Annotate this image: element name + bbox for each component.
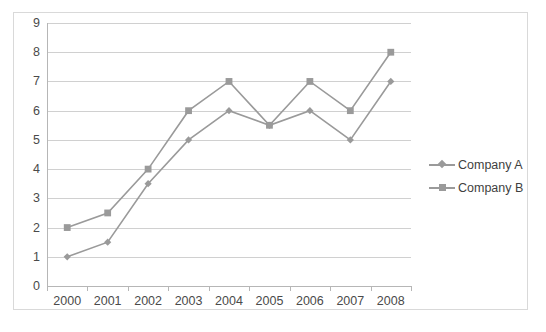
legend-item-company-b[interactable]: Company B — [429, 176, 525, 199]
y-tick-label: 9 — [33, 16, 40, 30]
y-tick-label: 5 — [33, 133, 40, 147]
x-tick-mark — [209, 286, 210, 291]
x-tick-label: 2005 — [256, 294, 284, 308]
x-tick-mark — [87, 286, 88, 291]
data-point-square — [347, 107, 354, 114]
x-tick-label: 2007 — [336, 294, 364, 308]
x-tick-mark — [290, 286, 291, 291]
y-tick-label: 6 — [33, 104, 40, 118]
chart-plot-wrapper: 0123456789 20002001200220032004200520062… — [14, 13, 529, 311]
y-tick-label: 3 — [33, 191, 40, 205]
x-tick-mark — [47, 286, 48, 291]
legend-label-company-a: Company A — [458, 158, 523, 172]
x-tick-label: 2000 — [53, 294, 81, 308]
chart-series-plot — [47, 23, 411, 286]
x-tick-mark — [249, 286, 250, 291]
x-tick-label: 2008 — [377, 294, 405, 308]
y-tick-label: 2 — [33, 221, 40, 235]
x-tick-mark — [128, 286, 129, 291]
x-tick-mark — [371, 286, 372, 291]
x-tick-mark — [411, 286, 412, 291]
data-point-square — [185, 107, 192, 114]
data-point-diamond — [64, 253, 71, 260]
data-point-square — [64, 224, 71, 231]
y-tick-label: 4 — [33, 162, 40, 176]
data-point-square — [226, 78, 233, 85]
x-tick-mark — [168, 286, 169, 291]
legend-marker-diamond-icon — [429, 159, 455, 171]
series-company-b — [64, 49, 394, 231]
chart-container: 0123456789 20002001200220032004200520062… — [13, 12, 528, 310]
x-tick-label: 2001 — [94, 294, 122, 308]
y-tick-label: 8 — [33, 45, 40, 59]
y-axis-tick-labels: 0123456789 — [14, 23, 40, 286]
x-tick-label: 2002 — [134, 294, 162, 308]
data-point-square — [266, 122, 273, 129]
legend-label-company-b: Company B — [458, 181, 523, 195]
data-point-square — [306, 78, 313, 85]
x-tick-label: 2004 — [215, 294, 243, 308]
y-tick-label: 1 — [33, 250, 40, 264]
x-tick-mark — [330, 286, 331, 291]
x-axis-line — [47, 286, 412, 287]
data-point-square — [387, 49, 394, 56]
data-point-square — [104, 210, 111, 217]
y-tick-label: 7 — [33, 74, 40, 88]
legend-marker-square-icon — [429, 182, 455, 194]
series-company-a — [64, 78, 395, 261]
x-tick-label: 2003 — [175, 294, 203, 308]
data-point-square — [145, 166, 152, 173]
y-tick-label: 0 — [33, 279, 40, 293]
x-tick-label: 2006 — [296, 294, 324, 308]
chart-legend: Company A Company B — [429, 153, 525, 199]
legend-item-company-a[interactable]: Company A — [429, 153, 525, 176]
